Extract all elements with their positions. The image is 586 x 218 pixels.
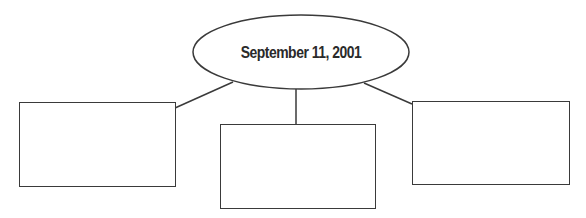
child-node-middle[interactable]	[220, 124, 376, 209]
child-node-right[interactable]	[412, 101, 570, 185]
center-node-label: September 11, 2001	[212, 15, 389, 90]
child-node-left[interactable]	[19, 102, 176, 187]
